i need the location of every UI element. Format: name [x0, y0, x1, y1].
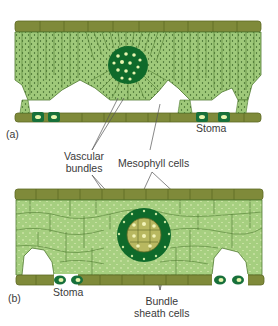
- panel-a-leaf: [15, 21, 261, 122]
- lower-epidermis-b: [16, 274, 264, 286]
- mesophyll-cells-label: Mesophyll cells: [118, 157, 189, 169]
- panel-b-label: (b): [8, 292, 21, 304]
- bundle-sheath-b: [117, 208, 171, 262]
- vascular-bundle-a: [108, 46, 148, 84]
- lower-epidermis-a: [15, 112, 261, 122]
- bundle-sheath-cells-label: Bundle sheath cells: [134, 295, 189, 319]
- panel-a-label: (a): [6, 128, 19, 140]
- upper-epidermis-b: [15, 189, 263, 200]
- vascular-label-line1: Vascular: [64, 150, 104, 162]
- vascular-label-line2: bundles: [64, 162, 104, 174]
- vascular-bundles-label: Vascular bundles: [64, 150, 104, 174]
- bundle-label-line1: Bundle: [134, 295, 189, 307]
- stoma-label-a: Stoma: [196, 122, 226, 134]
- upper-epidermis-a: [15, 21, 261, 32]
- bundle-label-line2: sheath cells: [134, 307, 189, 319]
- stoma-label-b: Stoma: [53, 286, 83, 298]
- panel-b-leaf: [15, 189, 264, 286]
